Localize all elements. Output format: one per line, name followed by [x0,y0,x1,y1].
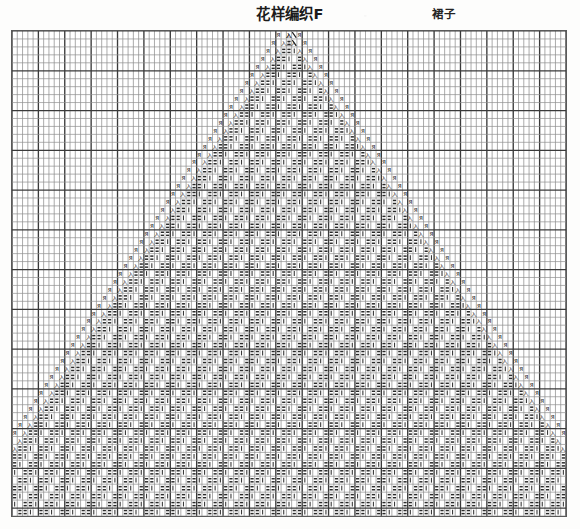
svg-text:Я: Я [398,183,402,189]
svg-text:Я: Я [535,390,539,396]
page-title: 花样编织F [0,2,580,23]
svg-text:Я: Я [39,390,43,396]
svg-text:入: 入 [202,159,208,165]
svg-text:Я: Я [387,167,391,173]
svg-text:入: 入 [365,152,371,158]
svg-text:Я: Я [13,430,17,436]
svg-text:Я: Я [440,247,444,253]
pattern-chart-canvas: Я入Я入△Я入Я入△Я入Я入Я入Я入Я入Я入Я入Я入Я入Я入Я入Я入Я入Я入Я入… [12,31,566,516]
svg-text:入: 入 [180,191,186,197]
svg-text:Я: Я [50,374,54,380]
svg-text:Я: Я [129,255,133,261]
svg-text:入: 入 [38,406,44,412]
svg-text:Я: Я [218,120,222,126]
svg-text:入: 入 [244,96,250,102]
svg-text:入: 入 [413,223,419,229]
svg-text:入: 入 [392,191,398,197]
svg-text:Я: Я [335,88,339,94]
svg-text:入: 入 [492,342,498,348]
svg-text:入: 入 [333,104,339,110]
pattern-chart-grid: Я入Я入△Я入Я入△Я入Я入Я入Я入Я入Я入Я入Я入Я入Я入Я入Я入Я入Я入Я入… [11,30,567,517]
svg-text:入: 入 [144,247,150,253]
svg-text:Я: Я [266,48,270,54]
svg-text:入: 入 [43,398,49,404]
svg-text:Я: Я [472,295,476,301]
svg-text:入: 入 [91,326,97,332]
svg-text:Я: Я [234,96,238,102]
svg-text:Я: Я [371,144,375,150]
svg-text:入: 入 [312,72,318,78]
svg-text:入: 入 [539,414,545,420]
svg-text:入: 入 [455,287,461,293]
svg-text:Я: Я [277,32,281,38]
svg-text:入: 入 [27,422,33,428]
svg-text:Я: Я [493,326,497,332]
svg-text:Я: Я [430,231,434,237]
svg-text:入: 入 [170,207,176,213]
svg-text:Я: Я [393,175,397,181]
svg-text:入: 入 [302,56,308,62]
svg-text:入: 入 [513,374,519,380]
svg-text:入: 入 [555,438,561,444]
svg-text:入: 入 [397,199,403,205]
svg-text:入: 入 [502,358,508,364]
svg-text:入: 入 [207,152,213,158]
svg-text:Я: Я [366,136,370,142]
svg-text:Я: Я [435,239,439,245]
svg-text:入: 入 [407,215,413,221]
svg-text:入: 入 [86,334,92,340]
svg-text:入: 入 [59,374,65,380]
svg-text:入: 入 [175,199,181,205]
svg-text:Я: Я [403,191,407,197]
svg-text:入: 入 [297,48,303,54]
svg-text:Я: Я [160,207,164,213]
svg-text:入: 入 [154,231,160,237]
svg-text:入: 入 [149,239,155,245]
svg-text:入: 入 [534,406,540,412]
svg-text:入: 入 [239,104,245,110]
svg-text:入: 入 [112,295,118,301]
svg-text:入: 入 [249,88,255,94]
svg-text:入: 入 [323,88,329,94]
svg-text:入: 入 [376,167,382,173]
svg-text:Я: Я [345,104,349,110]
svg-text:Я: Я [540,398,544,404]
svg-text:入: 入 [281,40,287,46]
svg-text:入: 入 [80,342,86,348]
svg-text:Я: Я [303,40,307,46]
svg-text:Я: Я [350,112,354,118]
svg-text:Я: Я [208,136,212,142]
svg-text:Я: Я [414,207,418,213]
svg-text:Я: Я [424,223,428,229]
svg-text:入: 入 [101,311,107,317]
svg-text:Я: Я [546,406,550,412]
svg-text:Я: Я [271,40,275,46]
svg-text:Я: Я [187,167,191,173]
svg-text:Я: Я [382,159,386,165]
svg-text:入: 入 [402,207,408,213]
svg-text:Я: Я [509,350,513,356]
svg-text:Я: Я [340,96,344,102]
svg-text:Я: Я [313,56,317,62]
svg-text:入: 入 [370,159,376,165]
svg-text:入: 入 [439,263,445,269]
svg-text:入: 入 [386,183,392,189]
svg-text:Я: Я [461,279,465,285]
svg-text:Я: Я [477,303,481,309]
svg-text:入: 入 [344,120,350,126]
svg-text:入: 入 [196,167,202,173]
svg-text:Я: Я [139,239,143,245]
svg-text:入: 入 [339,112,345,118]
svg-text:Я: Я [556,422,560,428]
svg-text:Я: Я [134,247,138,253]
svg-text:入: 入 [434,255,440,261]
svg-text:Я: Я [23,414,27,420]
svg-text:Я: Я [250,72,254,78]
svg-text:入: 入 [117,287,123,293]
svg-text:入: 入 [212,144,218,150]
svg-text:入: 入 [545,422,551,428]
svg-text:入: 入 [254,80,260,86]
svg-text:Я: Я [124,263,128,269]
svg-text:入: 入 [508,366,514,372]
svg-text:Я: Я [150,223,154,229]
